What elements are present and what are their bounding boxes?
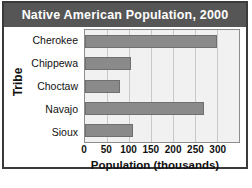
chart-frame: Native American Population, 2000 Tribe C… [2,1,248,169]
bar-navajo [85,102,204,115]
bar-row [85,52,239,74]
plot-area [84,29,240,143]
y-tick-label-chippewa: Chippewa [24,52,82,75]
x-axis-tick-labels: 050100150200250300 [84,144,240,157]
y-axis-tick-labels: Cherokee Chippewa Choctaw Navajo Sioux [24,29,82,143]
bar-chippewa [85,57,131,70]
x-tick-250: 250 [187,144,204,155]
chart-title-band: Native American Population, 2000 [4,3,246,27]
x-tick-50: 50 [101,144,112,155]
y-tick-label-cherokee: Cherokee [24,29,82,52]
x-axis-title: Population (thousands) [64,159,246,171]
y-tick-label-choctaw: Choctaw [24,75,82,98]
y-axis-title: Tribe [11,54,25,110]
bar-row [85,30,239,52]
x-tick-150: 150 [143,144,160,155]
bar-series [85,30,239,142]
bar-row [85,97,239,119]
bar-choctaw [85,80,120,93]
bar-sioux [85,124,133,137]
x-tick-300: 300 [209,144,226,155]
bar-row [85,75,239,97]
x-tick-0: 0 [81,144,87,155]
bar-cherokee [85,35,217,48]
bar-row [85,120,239,142]
chart-title: Native American Population, 2000 [22,8,229,22]
x-tick-100: 100 [120,144,137,155]
chart-body: Tribe Cherokee Chippewa Choctaw Navajo S… [4,27,246,167]
x-tick-200: 200 [165,144,182,155]
y-tick-label-sioux: Sioux [24,120,82,143]
chart-figure: Native American Population, 2000 Tribe C… [0,0,252,188]
y-tick-label-navajo: Navajo [24,97,82,120]
